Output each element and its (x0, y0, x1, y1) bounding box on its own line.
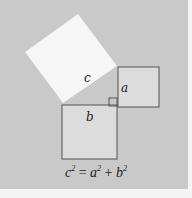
label-b: b (86, 110, 94, 124)
formula-plus: + (101, 165, 116, 180)
square-c (25, 14, 117, 103)
formula-b-exponent: 2 (123, 164, 127, 173)
label-c: c (84, 71, 91, 85)
formula-b: b (116, 165, 123, 180)
pythagorean-formula: c2 = a2 + b2 (0, 164, 192, 181)
formula-equals: = (75, 165, 90, 180)
label-a: a (121, 81, 128, 95)
